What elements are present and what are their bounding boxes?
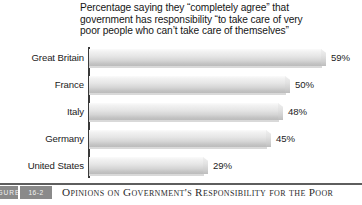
figure-label-tag: FIGURE bbox=[0, 186, 18, 199]
bar-end-cap bbox=[285, 76, 290, 93]
figure-number-tag: 16-2 bbox=[20, 186, 52, 199]
bar-row: Great Britain59% bbox=[0, 48, 362, 74]
figure-container: Percentage saying they “completely agree… bbox=[0, 0, 362, 205]
bar-rows: Great Britain59%France50%Italy48%Germany… bbox=[0, 45, 362, 180]
category-label-italy: Italy bbox=[0, 106, 84, 117]
bar-shadow bbox=[89, 174, 204, 176]
value-label-germany: 45% bbox=[276, 133, 295, 144]
value-label-france: 50% bbox=[295, 79, 314, 90]
category-label-france: France bbox=[0, 79, 84, 90]
figure-footer: FIGURE 16-2 Opinions on Government's Res… bbox=[0, 183, 362, 205]
chart-title: Percentage saying they “completely agree… bbox=[80, 2, 352, 37]
value-label-italy: 48% bbox=[288, 106, 307, 117]
bar-end-cap bbox=[266, 130, 271, 147]
bar-end-cap bbox=[203, 157, 208, 174]
bar-germany bbox=[89, 130, 267, 147]
value-label-united-states: 29% bbox=[213, 160, 232, 171]
bar-row: Germany45% bbox=[0, 129, 362, 155]
category-label-united-states: United States bbox=[0, 160, 84, 171]
bar-france bbox=[89, 76, 286, 93]
bar-shadow bbox=[89, 120, 279, 122]
plot-area: Great Britain59%France50%Italy48%Germany… bbox=[0, 45, 362, 180]
bar-row: France50% bbox=[0, 75, 362, 101]
bar-italy bbox=[89, 103, 279, 120]
bar-row: Italy48% bbox=[0, 102, 362, 128]
bar-end-cap bbox=[321, 49, 326, 66]
category-label-germany: Germany bbox=[0, 133, 84, 144]
bar-shadow bbox=[89, 66, 322, 68]
bar-end-cap bbox=[278, 103, 283, 120]
bar-shadow bbox=[89, 93, 286, 95]
category-label-great-britain: Great Britain bbox=[0, 52, 84, 63]
bar-row: United States29% bbox=[0, 156, 362, 182]
bar-united-states bbox=[89, 157, 204, 174]
bar-great-britain bbox=[89, 49, 322, 66]
figure-caption: Opinions on Government's Responsibility … bbox=[62, 185, 333, 200]
bar-shadow bbox=[89, 147, 267, 149]
value-label-great-britain: 59% bbox=[331, 52, 350, 63]
